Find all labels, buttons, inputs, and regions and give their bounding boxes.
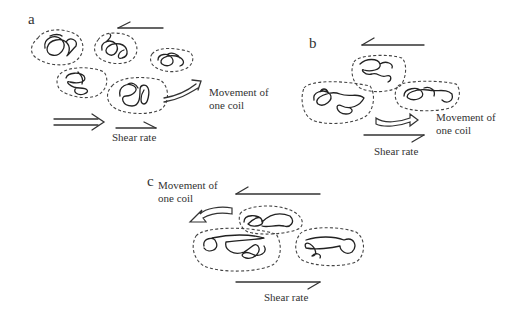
coil-c1 bbox=[239, 206, 302, 234]
coil-a1 bbox=[31, 30, 82, 65]
shear-arrow-top-left-icon bbox=[118, 22, 163, 28]
movement-label-a-line1: Movement of bbox=[209, 86, 269, 98]
movement-label-b-line2: one coil bbox=[436, 124, 471, 136]
shear-label-c: Shear rate bbox=[264, 291, 308, 303]
panel-c: c Movement of one coil Shea bbox=[147, 173, 364, 303]
shear-arrow-top-c-icon bbox=[236, 187, 320, 194]
double-arrow-a-icon bbox=[54, 114, 104, 130]
movement-label-c-line1: Movement of bbox=[158, 179, 218, 191]
shear-arrow-bottom-a-icon bbox=[116, 122, 156, 128]
coil-a2 bbox=[95, 33, 137, 64]
panel-c-letter: c bbox=[147, 173, 154, 189]
movement-arrow-b-icon bbox=[376, 114, 418, 126]
shear-label-a: Shear rate bbox=[112, 131, 156, 143]
shear-coil-diagram: a bbox=[0, 0, 519, 317]
panel-b: b Movement of one coil Shea bbox=[302, 35, 496, 157]
coil-c3 bbox=[296, 228, 364, 266]
panel-b-letter: b bbox=[309, 35, 317, 51]
coil-a3 bbox=[151, 49, 193, 72]
coil-b3 bbox=[395, 81, 459, 111]
movement-label-b-line1: Movement of bbox=[436, 111, 496, 123]
coil-b2 bbox=[302, 82, 373, 124]
shear-label-b: Shear rate bbox=[374, 145, 418, 157]
coil-c2 bbox=[193, 228, 280, 271]
movement-arrow-a-icon bbox=[164, 80, 201, 102]
coil-a4 bbox=[57, 68, 107, 98]
movement-arrow-c-icon bbox=[190, 207, 232, 222]
coil-b1 bbox=[352, 55, 406, 91]
movement-label-a-line2: one coil bbox=[209, 99, 244, 111]
shear-arrow-top-b-icon bbox=[362, 38, 424, 45]
shear-arrow-bottom-b-icon bbox=[364, 135, 424, 142]
panel-a-letter: a bbox=[28, 11, 35, 27]
panel-a: a bbox=[28, 11, 269, 143]
coil-a5-moving bbox=[108, 78, 168, 114]
shear-arrow-bottom-c-icon bbox=[236, 282, 320, 289]
movement-label-c-line2: one coil bbox=[158, 192, 193, 204]
